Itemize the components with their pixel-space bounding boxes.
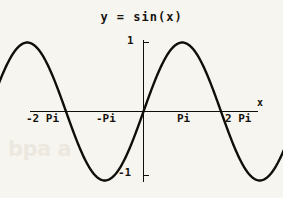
sine-plot	[0, 0, 283, 198]
x-axis-label: x	[257, 97, 263, 108]
x-tick-label-neg-two-pi: -2 Pi	[26, 112, 59, 125]
x-tick-label-pi: Pi	[177, 112, 190, 125]
figure-canvas: bpa a y = sin(x) -2 Pi -Pi Pi 2 Pi x 1 -…	[0, 0, 283, 198]
x-tick-label-two-pi: 2 Pi	[225, 112, 252, 125]
y-tick-label-neg-one: -1	[118, 166, 131, 179]
y-tick-label-one: 1	[127, 34, 134, 47]
x-tick-label-neg-pi: -Pi	[96, 112, 116, 125]
